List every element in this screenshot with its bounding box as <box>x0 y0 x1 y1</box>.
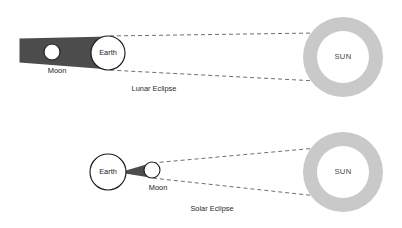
lunar-earth-label: Earth <box>99 48 117 57</box>
lunar-eclipse-panel: Moon Earth SUN Lunar Eclipse <box>20 17 384 97</box>
solar-sun-label: SUN <box>334 167 351 176</box>
lunar-eclipse-caption: Lunar Eclipse <box>132 84 177 93</box>
solar-earth-label: Earth <box>99 167 117 176</box>
lunar-moon-label: Moon <box>48 66 67 75</box>
solar-eclipse-panel: Earth Moon SUN Solar Eclipse <box>90 132 383 213</box>
eclipse-diagram: Moon Earth SUN Lunar Eclipse Earth Moon <box>0 0 402 228</box>
solar-ray-lower <box>152 178 317 196</box>
lunar-ray-lower <box>108 70 317 81</box>
solar-ray-upper <box>152 148 317 163</box>
solar-moon-circle <box>144 162 160 178</box>
lunar-moon-circle <box>44 44 60 60</box>
lunar-sun-label: SUN <box>334 52 351 61</box>
lunar-ray-upper <box>108 33 317 36</box>
diagram-canvas: Moon Earth SUN Lunar Eclipse Earth Moon <box>0 0 402 228</box>
solar-moon-label: Moon <box>149 183 168 192</box>
solar-eclipse-caption: Solar Eclipse <box>190 204 233 213</box>
